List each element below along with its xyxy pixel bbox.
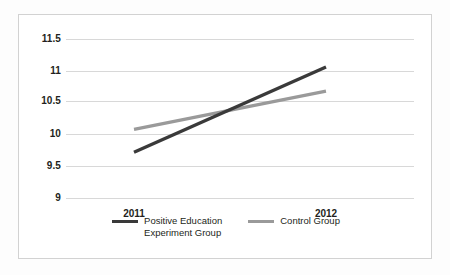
chart-screenshot: 11.5 11 10.5 10 9.5 9 2011 2012 Positive… bbox=[0, 0, 450, 275]
legend-item-experiment-group: Positive Education Experiment Group bbox=[112, 215, 222, 238]
chart-legend: Positive Education Experiment Group Cont… bbox=[19, 215, 433, 238]
chart-frame: 11.5 11 10.5 10 9.5 9 2011 2012 Positive… bbox=[18, 14, 432, 259]
legend-label-experiment-group: Positive Education Experiment Group bbox=[144, 215, 222, 238]
legend-item-control-group: Control Group bbox=[248, 215, 340, 227]
legend-swatch-experiment-group bbox=[112, 220, 138, 223]
legend-label-control-group: Control Group bbox=[280, 215, 340, 227]
experiment-group-line bbox=[134, 67, 326, 152]
legend-swatch-control-group bbox=[248, 220, 274, 223]
plot-area: 11.5 11 10.5 10 9.5 9 2011 2012 Positive… bbox=[19, 15, 433, 260]
